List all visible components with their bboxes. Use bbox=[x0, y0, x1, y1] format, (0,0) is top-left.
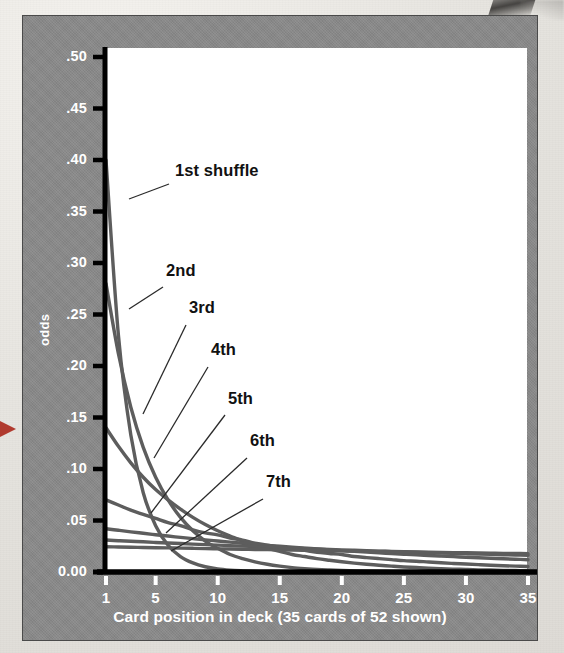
series-label-7th: 7th bbox=[266, 472, 291, 491]
leader-line-4 bbox=[154, 367, 208, 458]
x-tick-label-5: 25 bbox=[379, 589, 429, 606]
leader-line-5 bbox=[151, 415, 225, 513]
y-tick-label-1: .05 bbox=[23, 512, 87, 528]
chart-graphic bbox=[23, 16, 537, 640]
series-label-3rd: 3rd bbox=[189, 298, 215, 317]
y-axis-title: odds bbox=[37, 314, 52, 346]
x-tick-label-6: 30 bbox=[441, 589, 491, 606]
x-tick-label-4: 20 bbox=[317, 589, 367, 606]
series-label-6th: 6th bbox=[250, 431, 275, 450]
y-tick-label-9: .45 bbox=[23, 100, 87, 116]
curve-2nd bbox=[106, 284, 416, 572]
leader-line-6 bbox=[166, 458, 247, 533]
y-tick-label-8: .40 bbox=[23, 151, 87, 167]
y-tick-label-10: .50 bbox=[23, 48, 87, 64]
series-label-5th: 5th bbox=[228, 389, 253, 408]
leader-line-1 bbox=[129, 184, 169, 199]
y-tick-label-2: .10 bbox=[23, 460, 87, 476]
y-tick-label-0: 0.00 bbox=[23, 563, 87, 579]
series-label-1st-shuffle: 1st shuffle bbox=[175, 161, 259, 180]
series-curves bbox=[106, 160, 528, 572]
chart-panel: 0.00.05.10.15.20.25.30.35.40.45.50 15101… bbox=[23, 16, 537, 640]
x-tick-label-3: 15 bbox=[255, 589, 305, 606]
x-tick-label-0: 1 bbox=[81, 589, 131, 606]
x-axis-title: Card position in deck (35 cards of 52 sh… bbox=[23, 608, 537, 626]
series-label-2nd: 2nd bbox=[166, 261, 196, 280]
y-tick-label-7: .35 bbox=[23, 203, 87, 219]
y-tick-label-3: .15 bbox=[23, 409, 87, 425]
y-tick-label-6: .30 bbox=[23, 254, 87, 270]
leader-line-3 bbox=[143, 325, 186, 414]
series-label-4th: 4th bbox=[211, 340, 236, 359]
axes bbox=[93, 47, 537, 585]
x-tick-label-1: 5 bbox=[131, 589, 181, 606]
y-tick-label-5: .25 bbox=[23, 306, 87, 322]
page-edge-arrow-marker bbox=[0, 418, 22, 440]
leader-line-2 bbox=[129, 287, 163, 309]
annotation-leader-lines bbox=[129, 184, 263, 551]
x-tick-label-2: 10 bbox=[193, 589, 243, 606]
y-tick-label-4: .20 bbox=[23, 357, 87, 373]
x-tick-label-7: 35 bbox=[503, 589, 553, 606]
